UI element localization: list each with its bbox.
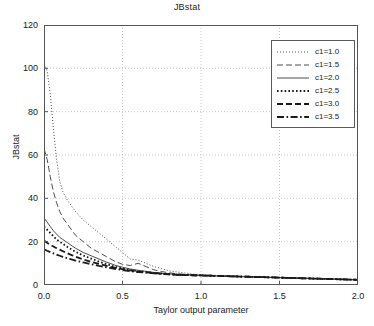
legend-line-sample [276, 111, 310, 123]
legend-label: c1=1.0 [315, 47, 339, 56]
legend-line-sample [276, 98, 310, 110]
x-axis-tick-label: 1.0 [195, 291, 208, 301]
legend-label: c1=3.5 [315, 112, 339, 121]
y-axis-tick-label: 120 [4, 20, 38, 30]
legend-item[interactable]: c1=2.0 [276, 71, 350, 84]
legend-label: c1=3.0 [315, 99, 339, 108]
legend-item[interactable]: c1=3.5 [276, 110, 350, 123]
legend-line-sample [276, 46, 310, 58]
y-axis-tick-label: 100 [4, 63, 38, 73]
legend-line-sample [276, 85, 310, 97]
x-axis-title: Taylor output parameter [44, 305, 358, 315]
x-axis-tick-label: 0.5 [116, 291, 129, 301]
series-line [44, 241, 358, 280]
y-axis-tick-label: 0 [4, 280, 38, 290]
legend-item[interactable]: c1=1.5 [276, 58, 350, 71]
y-axis-tick-label: 40 [4, 193, 38, 203]
legend-line-sample [276, 59, 310, 71]
legend-label: c1=1.5 [315, 60, 339, 69]
chart-title: JBstat [0, 2, 374, 12]
series-line [44, 218, 358, 280]
x-axis-tick-label: 1.5 [273, 291, 286, 301]
y-axis-title: JBstat [11, 117, 21, 177]
y-axis-tick-label: 60 [4, 150, 38, 160]
legend-label: c1=2.0 [315, 73, 339, 82]
x-axis-tick-label: 2.0 [352, 291, 365, 301]
chart-legend: c1=1.0c1=1.5c1=2.0c1=2.5c1=3.0c1=3.5 [271, 40, 355, 128]
legend-label: c1=2.5 [315, 86, 339, 95]
y-axis-tick-label: 80 [4, 107, 38, 117]
legend-item[interactable]: c1=1.0 [276, 45, 350, 58]
legend-item[interactable]: c1=2.5 [276, 84, 350, 97]
y-axis-tick-label: 20 [4, 237, 38, 247]
chart-figure: JBstat 020406080100120 0.00.51.01.52.0 T… [0, 0, 374, 326]
legend-line-sample [276, 72, 310, 84]
x-axis-tick-label: 0.0 [38, 291, 51, 301]
legend-item[interactable]: c1=3.0 [276, 97, 350, 110]
